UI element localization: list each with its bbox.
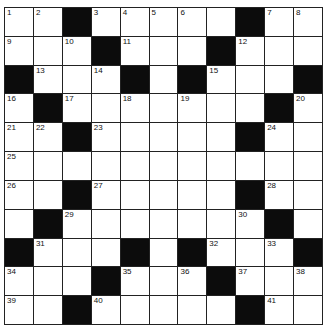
grid-cell[interactable]: [150, 94, 178, 122]
grid-cell[interactable]: [92, 152, 120, 180]
grid-cell[interactable]: 1: [5, 8, 33, 36]
grid-cell[interactable]: [294, 210, 322, 238]
grid-cell[interactable]: [121, 210, 149, 238]
grid-cell[interactable]: [178, 37, 206, 65]
grid-cell[interactable]: [92, 94, 120, 122]
grid-cell[interactable]: 9: [5, 37, 33, 65]
grid-cell[interactable]: [63, 267, 91, 295]
grid-cell[interactable]: [294, 296, 322, 324]
grid-cell[interactable]: [265, 152, 293, 180]
grid-cell[interactable]: [207, 296, 235, 324]
grid-cell[interactable]: 20: [294, 94, 322, 122]
grid-cell[interactable]: [150, 181, 178, 209]
grid-cell[interactable]: [294, 37, 322, 65]
grid-cell[interactable]: 2: [34, 8, 62, 36]
grid-cell[interactable]: 38: [294, 267, 322, 295]
grid-cell[interactable]: 34: [5, 267, 33, 295]
grid-cell[interactable]: [92, 210, 120, 238]
grid-cell[interactable]: 8: [294, 8, 322, 36]
grid-cell[interactable]: 29: [63, 210, 91, 238]
grid-cell[interactable]: [265, 66, 293, 94]
grid-cell[interactable]: 10: [63, 37, 91, 65]
grid-cell[interactable]: [265, 37, 293, 65]
grid-cell[interactable]: 22: [34, 123, 62, 151]
grid-cell[interactable]: [178, 123, 206, 151]
grid-cell[interactable]: [150, 239, 178, 267]
grid-cell[interactable]: [294, 181, 322, 209]
grid-cell[interactable]: 32: [207, 239, 235, 267]
clue-number: 15: [209, 67, 218, 75]
grid-cell[interactable]: 21: [5, 123, 33, 151]
grid-cell[interactable]: [236, 152, 264, 180]
grid-cell[interactable]: 23: [92, 123, 120, 151]
grid-cell[interactable]: 4: [121, 8, 149, 36]
grid-cell[interactable]: [63, 239, 91, 267]
grid-cell[interactable]: 6: [178, 8, 206, 36]
grid-cell[interactable]: 27: [92, 181, 120, 209]
grid-cell[interactable]: [150, 152, 178, 180]
grid-cell[interactable]: 16: [5, 94, 33, 122]
grid-cell[interactable]: [150, 123, 178, 151]
grid-cell[interactable]: 13: [34, 66, 62, 94]
grid-cell[interactable]: [178, 181, 206, 209]
grid-cell[interactable]: [236, 66, 264, 94]
grid-cell[interactable]: 37: [236, 267, 264, 295]
grid-cell[interactable]: [236, 239, 264, 267]
grid-cell[interactable]: [207, 210, 235, 238]
grid-cell[interactable]: 24: [265, 123, 293, 151]
grid-cell[interactable]: [265, 267, 293, 295]
grid-cell[interactable]: 41: [265, 296, 293, 324]
grid-cell[interactable]: [34, 267, 62, 295]
grid-cell[interactable]: [294, 152, 322, 180]
grid-cell[interactable]: [178, 296, 206, 324]
grid-cell[interactable]: [150, 296, 178, 324]
grid-cell[interactable]: 35: [121, 267, 149, 295]
grid-cell[interactable]: [34, 37, 62, 65]
grid-cell[interactable]: [178, 152, 206, 180]
grid-cell[interactable]: 19: [178, 94, 206, 122]
grid-cell[interactable]: 15: [207, 66, 235, 94]
grid-cell[interactable]: 17: [63, 94, 91, 122]
grid-cell[interactable]: [207, 8, 235, 36]
grid-cell[interactable]: 18: [121, 94, 149, 122]
grid-cell[interactable]: [34, 152, 62, 180]
grid-cell[interactable]: 3: [92, 8, 120, 36]
grid-cell[interactable]: 25: [5, 152, 33, 180]
grid-cell[interactable]: 5: [150, 8, 178, 36]
grid-cell[interactable]: [63, 152, 91, 180]
grid-cell[interactable]: 31: [34, 239, 62, 267]
grid-cell[interactable]: [150, 210, 178, 238]
grid-cell[interactable]: 36: [178, 267, 206, 295]
grid-cell[interactable]: [150, 66, 178, 94]
clue-number: 41: [267, 297, 276, 305]
grid-cell[interactable]: [5, 210, 33, 238]
clue-number: 17: [65, 95, 74, 103]
grid-cell[interactable]: [150, 37, 178, 65]
grid-cell[interactable]: 11: [121, 37, 149, 65]
grid-cell[interactable]: [207, 181, 235, 209]
grid-cell[interactable]: [236, 94, 264, 122]
grid-cell[interactable]: [178, 210, 206, 238]
grid-cell[interactable]: 14: [92, 66, 120, 94]
grid-cell[interactable]: [150, 267, 178, 295]
grid-cell[interactable]: [121, 123, 149, 151]
grid-cell[interactable]: 40: [92, 296, 120, 324]
grid-cell[interactable]: 7: [265, 8, 293, 36]
grid-cell[interactable]: 30: [236, 210, 264, 238]
grid-cell[interactable]: 26: [5, 181, 33, 209]
grid-cell[interactable]: [92, 239, 120, 267]
grid-cell[interactable]: [121, 152, 149, 180]
grid-cell[interactable]: [294, 123, 322, 151]
grid-cell[interactable]: [34, 181, 62, 209]
grid-cell[interactable]: [63, 66, 91, 94]
grid-cell[interactable]: [207, 123, 235, 151]
grid-cell[interactable]: 39: [5, 296, 33, 324]
grid-cell[interactable]: [121, 181, 149, 209]
grid-cell[interactable]: [121, 296, 149, 324]
grid-cell[interactable]: 28: [265, 181, 293, 209]
grid-cell[interactable]: [34, 296, 62, 324]
grid-cell[interactable]: 12: [236, 37, 264, 65]
grid-cell[interactable]: 33: [265, 239, 293, 267]
grid-cell[interactable]: [207, 152, 235, 180]
grid-cell[interactable]: [207, 94, 235, 122]
